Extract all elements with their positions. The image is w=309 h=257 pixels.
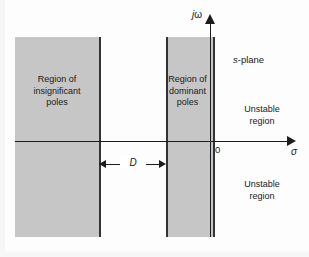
real-axis-arrowhead-icon xyxy=(287,136,296,146)
dimension-arrowhead-right-icon xyxy=(159,160,166,168)
region-dominant-line-1: Region of xyxy=(164,74,211,86)
s-plane-pole-region-diagram: jω σ 0 s-plane Region of insignificant p… xyxy=(0,0,309,257)
imaginary-axis-line xyxy=(210,24,211,237)
unstable-region-label-upper: Unstable region xyxy=(231,104,293,127)
origin-label: 0 xyxy=(215,144,220,155)
imaginary-axis-arrowhead-icon xyxy=(205,14,215,24)
s-plane-label: s-plane xyxy=(233,54,264,65)
real-axis-label: σ xyxy=(291,146,297,157)
unstable-upper-line-1: Unstable xyxy=(231,104,293,116)
s-plane-label-rest: -plane xyxy=(238,54,264,65)
region-of-insignificant-poles-shape xyxy=(15,37,101,237)
region-of-dominant-poles-shape xyxy=(166,37,215,237)
unstable-lower-line-1: Unstable xyxy=(231,179,293,191)
scan-edge-artifact-bottom xyxy=(0,252,309,257)
real-axis-line xyxy=(15,141,289,142)
region-of-dominant-poles-label: Region of dominant poles xyxy=(164,74,211,109)
region-of-insignificant-poles-label: Region of insignificant poles xyxy=(15,74,99,109)
dimension-label-d: D xyxy=(120,157,146,168)
region-insignificant-line-3: poles xyxy=(15,97,99,109)
unstable-lower-line-2: region xyxy=(231,191,293,203)
region-insignificant-line-1: Region of xyxy=(15,74,99,86)
region-insignificant-line-2: insignificant xyxy=(15,86,99,98)
scan-edge-artifact-left xyxy=(0,0,5,257)
unstable-region-label-lower: Unstable region xyxy=(231,179,293,202)
region-dominant-line-3: poles xyxy=(164,97,211,109)
imaginary-axis-label: jω xyxy=(192,9,202,20)
region-dominant-line-2: dominant xyxy=(164,86,211,98)
imaginary-axis-label-omega: ω xyxy=(194,9,202,20)
unstable-upper-line-2: region xyxy=(231,116,293,128)
